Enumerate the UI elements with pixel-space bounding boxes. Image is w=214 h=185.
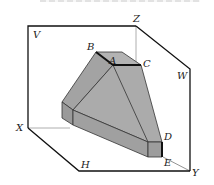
label-E: E (163, 157, 172, 168)
label-Y: Y (192, 167, 200, 178)
label-A: A (108, 55, 116, 66)
label-H: H (80, 159, 90, 170)
label-Z: Z (132, 13, 141, 24)
label-X: X (15, 122, 24, 133)
label-C: C (143, 58, 151, 69)
label-V: V (33, 29, 42, 40)
label-B: B (86, 41, 94, 52)
projection-diagram: V Z W X H Y B A C D E (0, 0, 214, 185)
label-W: W (177, 70, 188, 81)
label-D: D (163, 131, 172, 142)
